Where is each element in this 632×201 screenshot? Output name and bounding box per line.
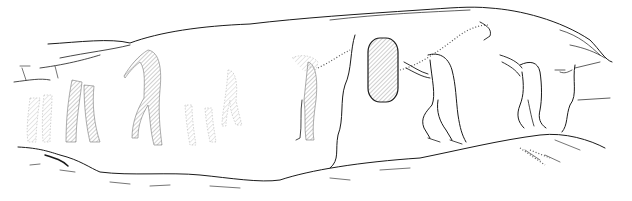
faint-small-figure <box>222 70 242 126</box>
tall-hatched-figure <box>124 50 162 145</box>
right-quadruped-figure <box>500 55 572 128</box>
rock-panel-drawing <box>0 0 632 201</box>
bending-figure <box>400 22 491 144</box>
rock-art-illustration <box>0 0 632 201</box>
faint-legs-pair <box>185 105 216 145</box>
left-legs-group <box>27 80 100 142</box>
rock-outline-bottom <box>18 134 605 188</box>
hatched-oval-shield <box>368 38 398 102</box>
left-standing-figure <box>292 50 350 140</box>
